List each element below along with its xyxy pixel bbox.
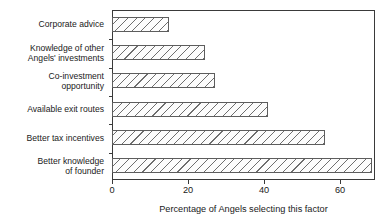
x-axis-ticks: 0204060	[112, 180, 375, 200]
bar	[112, 158, 372, 173]
bar	[112, 17, 169, 32]
category-axis-labels: Corporate adviceKnowledge of other Angel…	[0, 10, 108, 180]
category-label: Available exit routes	[0, 104, 104, 114]
x-axis-tick-label: 20	[173, 185, 203, 196]
category-label: Corporate advice	[0, 19, 104, 29]
x-axis-tick-label: 0	[97, 185, 127, 196]
x-axis-tick-label: 60	[325, 185, 355, 196]
x-axis-tick-mark	[188, 180, 189, 184]
bar	[112, 73, 215, 88]
x-axis-tick-mark	[340, 180, 341, 184]
category-label: Co-investment opportunity	[0, 71, 104, 91]
category-label: Better tax incentives	[0, 133, 104, 143]
bar	[112, 130, 325, 145]
bars-layer	[112, 10, 375, 180]
x-axis-tick-mark	[112, 180, 113, 184]
bar-chart-figure: Corporate adviceKnowledge of other Angel…	[0, 0, 390, 222]
category-label: Knowledge of other Angels' investments	[0, 43, 104, 63]
bar	[112, 45, 205, 60]
category-label: Better knowledge of founder	[0, 156, 104, 176]
x-axis-tick-mark	[264, 180, 265, 184]
x-axis-tick-label: 40	[249, 185, 279, 196]
bar	[112, 102, 268, 117]
x-axis-title: Percentage of Angels selecting this fact…	[112, 203, 375, 215]
